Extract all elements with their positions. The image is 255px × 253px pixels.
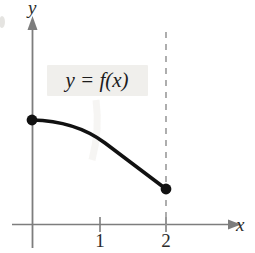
x-axis-label: x — [235, 214, 245, 235]
right-endpoint-dot — [161, 184, 172, 195]
x-tick-label-1: 1 — [95, 230, 105, 251]
scan-artifact — [0, 16, 5, 28]
function-graph-figure: x y 1 2 y = f(x) — [0, 0, 255, 253]
x-tick-label-2: 2 — [161, 230, 171, 251]
y-axis-label: y — [26, 0, 37, 18]
left-endpoint-dot — [27, 115, 38, 126]
scan-streak — [92, 100, 97, 160]
graph-canvas: x y 1 2 y = f(x) — [0, 0, 255, 253]
y-axis-arrowhead — [28, 16, 38, 30]
function-label: y = f(x) — [63, 68, 128, 92]
